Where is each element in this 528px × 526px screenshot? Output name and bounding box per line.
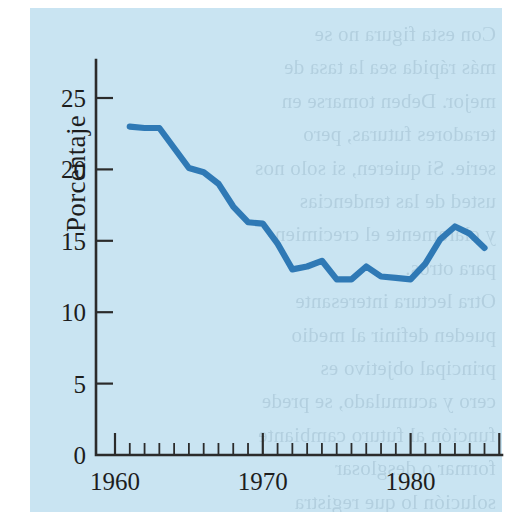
- chart-panel: Con esta figura no se más rápida sea la …: [30, 8, 502, 512]
- scanned-page: Con esta figura no se más rápida sea la …: [0, 0, 528, 526]
- y-axis-title: Porcentaje: [61, 84, 92, 264]
- bleed-through-text: Con esta figura no se más rápida sea la …: [30, 8, 502, 512]
